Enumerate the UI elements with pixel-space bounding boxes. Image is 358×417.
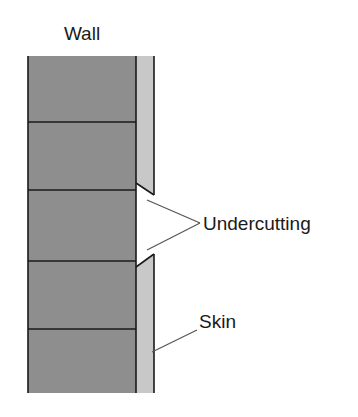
wall-diagram: Wall Undercutting Skin (0, 0, 358, 417)
undercutting-leader-lower (147, 223, 200, 250)
wall-title: Wall (64, 23, 100, 44)
skin-lower (136, 254, 154, 393)
skin-leader (152, 330, 197, 352)
skin-label: Skin (199, 311, 236, 332)
skin-upper (136, 56, 154, 195)
brick-wall (28, 56, 136, 393)
undercutting-label: Undercutting (203, 213, 311, 234)
undercutting-leader-upper (147, 200, 200, 223)
